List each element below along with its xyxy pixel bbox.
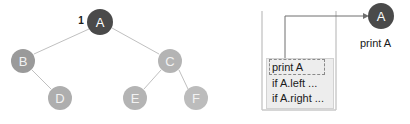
stack-line-if-a-left[interactable]: if A.left ...: [272, 76, 317, 90]
output-caption: print A: [360, 37, 391, 49]
edge-b-d: [32, 70, 51, 89]
output-connector-arrow: [285, 13, 369, 58]
step-number-label: 1: [78, 15, 84, 26]
stack-line-print-a[interactable]: print A: [272, 60, 303, 74]
output-node-label: A: [377, 9, 386, 24]
edge-c-f: [179, 70, 188, 89]
output-node: A: [368, 3, 394, 29]
tree-node-f-label: F: [192, 91, 200, 106]
edge-a-c: [112, 28, 159, 54]
tree-node-b-label: B: [19, 54, 28, 69]
tree-nodes: A B C D E F: [11, 9, 208, 110]
tree-node-c-label: C: [165, 54, 174, 69]
tree-node-a-label: A: [96, 15, 105, 30]
connector-path: [285, 16, 363, 58]
diagram-vector-layer: A B C D E F 1 A: [0, 0, 410, 124]
stack-line-if-a-right[interactable]: if A.right ...: [272, 91, 324, 105]
tree-node-e-label: E: [131, 91, 140, 106]
edge-a-b: [34, 29, 89, 54]
edge-c-e: [144, 70, 161, 89]
tree-node-d-label: D: [55, 91, 64, 106]
recursion-tree-diagram: A B C D E F 1 A: [0, 0, 410, 124]
